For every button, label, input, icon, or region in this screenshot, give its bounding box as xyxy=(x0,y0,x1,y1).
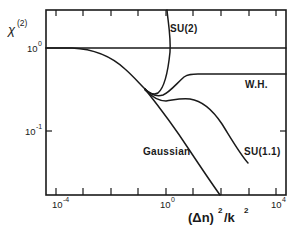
x-tick-label-1: 10 0 xyxy=(160,196,175,210)
svg-text:10: 10 xyxy=(25,126,36,137)
plot-frame xyxy=(46,10,286,195)
label-gaussian: Gaussian xyxy=(143,146,190,157)
svg-text:10: 10 xyxy=(52,199,63,210)
top-ticks xyxy=(56,10,276,16)
svg-text:2: 2 xyxy=(244,206,249,215)
label-wh: W.H. xyxy=(245,79,268,90)
label-su11: SU(1.1) xyxy=(244,146,281,157)
x-tick-label-1e4: 10 4 xyxy=(271,196,286,210)
svg-text:0: 0 xyxy=(38,40,42,47)
svg-text:χ: χ xyxy=(7,22,16,37)
svg-text:10: 10 xyxy=(27,43,38,54)
x-tick-label-1e-4: 10 -4 xyxy=(52,196,69,210)
svg-text:/k: /k xyxy=(224,210,236,225)
svg-text:10: 10 xyxy=(271,199,282,210)
y-axis-label: χ (2) xyxy=(7,18,28,37)
chart-svg: SU(2) W.H. SU(1.1) Gaussian χ (2) 10 0 1… xyxy=(0,0,299,235)
svg-text:(2): (2) xyxy=(17,18,28,28)
curve-gaussian xyxy=(145,89,220,195)
svg-text:(Δn): (Δn) xyxy=(188,210,214,225)
curve-su2 xyxy=(145,10,170,94)
chart-figure: SU(2) W.H. SU(1.1) Gaussian χ (2) 10 0 1… xyxy=(0,0,299,235)
svg-text:2: 2 xyxy=(218,206,223,215)
label-su2: SU(2) xyxy=(170,23,198,34)
svg-text:-1: -1 xyxy=(36,123,42,130)
bottom-ticks xyxy=(56,188,276,195)
y-tick-label-1: 10 0 xyxy=(27,40,42,54)
common-trunk-curve xyxy=(46,48,145,89)
svg-text:10: 10 xyxy=(160,199,171,210)
svg-text:-4: -4 xyxy=(63,196,69,203)
svg-text:0: 0 xyxy=(171,196,175,203)
y-tick-label-0.1: 10 -1 xyxy=(25,123,42,137)
svg-text:4: 4 xyxy=(282,196,286,203)
x-axis-label: (Δn) 2 /k 2 xyxy=(188,206,249,225)
